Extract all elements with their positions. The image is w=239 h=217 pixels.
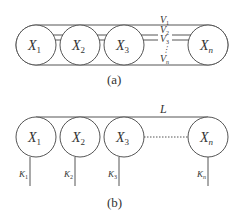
caption-b: (b) bbox=[107, 195, 122, 210]
stem-k3-label: K3 bbox=[107, 169, 117, 180]
line-vn-label: Vn bbox=[160, 53, 169, 65]
figure-a: X1 X2 X3 Xn V1 V2 V3 ⋮ Vn (a) bbox=[16, 14, 228, 87]
line-l-label: L bbox=[159, 102, 167, 116]
diagram: X1 X2 X3 Xn V1 V2 V3 ⋮ Vn (a) L X1 X2 X3… bbox=[0, 0, 239, 217]
stem-kn-label: Kn bbox=[196, 169, 206, 180]
figure-b: L X1 X2 X3 Xn K1 K2 K3 Kn (b) bbox=[16, 102, 228, 210]
stem-k1-label: K1 bbox=[18, 169, 28, 180]
caption-a: (a) bbox=[107, 72, 121, 87]
stem-k2-label: K2 bbox=[63, 169, 73, 180]
